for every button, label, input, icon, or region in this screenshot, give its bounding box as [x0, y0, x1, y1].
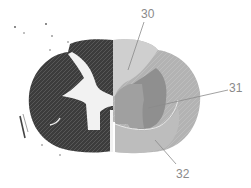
right-half — [113, 39, 200, 153]
spinal-cord-figure: 30 31 32 — [0, 0, 251, 188]
label-32: 32 — [176, 168, 189, 180]
central-region — [115, 84, 144, 128]
label-31: 31 — [229, 82, 242, 94]
spinal-cord-illustration — [0, 0, 251, 188]
label-30: 30 — [141, 8, 154, 20]
left-half — [29, 39, 113, 152]
